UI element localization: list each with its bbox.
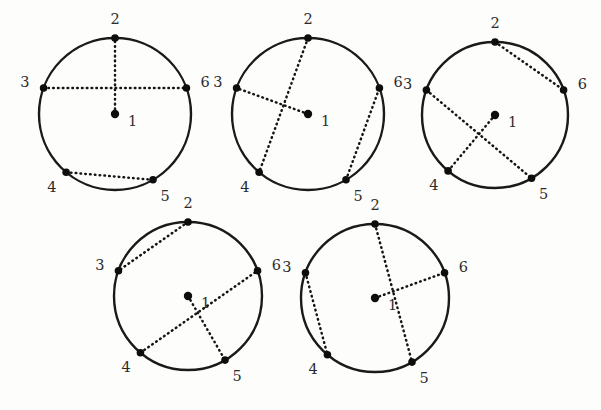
vertex-dot-2	[491, 38, 499, 46]
vertex-dot-3	[423, 86, 431, 94]
vertex-dot-5	[221, 356, 229, 364]
vertex-label-5: 5	[161, 188, 170, 204]
vertex-dot-6	[560, 86, 568, 94]
matching-panel-5: 123456	[282, 197, 468, 386]
matching-edge-4-6	[140, 271, 257, 353]
vertex-label-2: 2	[490, 15, 499, 31]
panels-group: 123456123456123456123456123456	[20, 11, 587, 386]
vertex-dot-1	[371, 294, 379, 302]
vertex-dot-2	[184, 218, 192, 226]
vertex-dot-3	[40, 84, 48, 92]
vertex-label-3: 3	[213, 74, 222, 90]
matching-edge-2-4	[259, 38, 308, 172]
vertex-label-6: 6	[272, 257, 281, 273]
matching-edge-1-3	[237, 88, 308, 114]
vertex-label-4: 4	[240, 179, 249, 195]
vertex-dot-6	[254, 267, 262, 275]
vertex-dot-5	[528, 174, 536, 182]
matching-panel-1: 123456	[20, 11, 209, 204]
vertex-dot-4	[62, 168, 70, 176]
matching-edge-2-5	[375, 224, 412, 362]
vertex-label-6: 6	[578, 76, 587, 92]
vertex-label-3: 3	[95, 257, 104, 273]
matching-panel-4: 123456	[95, 195, 281, 384]
matching-edge-4-5	[66, 172, 153, 180]
vertex-dot-2	[304, 34, 312, 42]
vertex-label-6: 6	[459, 259, 468, 275]
vertex-dot-1	[491, 111, 499, 119]
vertex-label-2: 2	[183, 195, 192, 211]
vertex-label-4: 4	[47, 179, 56, 195]
vertex-label-1: 1	[388, 297, 397, 313]
vertex-dot-3	[233, 84, 241, 92]
vertex-label-6: 6	[201, 74, 210, 90]
vertex-label-3: 3	[282, 259, 291, 275]
vertex-dot-6	[441, 269, 449, 277]
vertex-dot-6	[376, 84, 384, 92]
vertex-label-2: 2	[110, 11, 119, 27]
vertex-label-5: 5	[354, 188, 363, 204]
vertex-dot-4	[324, 351, 332, 359]
vertex-dot-5	[408, 358, 416, 366]
vertex-dot-5	[149, 176, 157, 184]
vertex-label-4: 4	[122, 359, 131, 375]
vertex-label-1: 1	[508, 114, 517, 130]
vertex-dot-3	[115, 267, 123, 275]
vertex-dot-1	[184, 292, 192, 300]
vertex-dot-6	[183, 84, 191, 92]
vertex-label-2: 2	[370, 197, 379, 213]
vertex-label-5: 5	[539, 186, 548, 202]
vertex-dot-4	[137, 349, 145, 357]
matchings-figure: 123456123456123456123456123456	[0, 0, 601, 410]
figure-root: 123456123456123456123456123456	[0, 0, 601, 410]
vertex-label-3: 3	[20, 74, 29, 90]
matching-edge-2-3	[118, 222, 188, 271]
vertex-dot-5	[342, 176, 350, 184]
vertex-dot-3	[302, 269, 310, 277]
vertex-label-3: 3	[403, 76, 412, 92]
vertex-label-1: 1	[128, 113, 137, 129]
matching-panel-2: 123456	[213, 11, 402, 204]
vertex-dot-2	[371, 220, 379, 228]
vertex-label-1: 1	[201, 295, 210, 311]
vertex-label-5: 5	[420, 370, 429, 386]
vertex-label-6: 6	[394, 74, 403, 90]
vertex-label-1: 1	[321, 113, 330, 129]
vertex-dot-4	[444, 167, 452, 175]
vertex-label-2: 2	[303, 11, 312, 27]
vertex-dot-4	[255, 168, 263, 176]
vertex-label-4: 4	[309, 361, 318, 377]
matching-panel-3: 123456	[403, 15, 587, 202]
vertex-dot-1	[304, 110, 312, 118]
vertex-label-4: 4	[429, 177, 438, 193]
vertex-label-5: 5	[233, 368, 242, 384]
vertex-dot-2	[111, 34, 119, 42]
vertex-dot-1	[111, 110, 119, 118]
matching-edge-1-6	[375, 273, 445, 298]
